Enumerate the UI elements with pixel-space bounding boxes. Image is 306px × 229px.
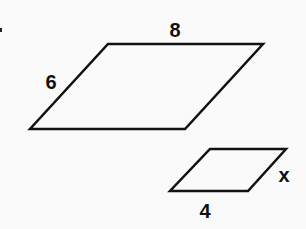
large-left-side-label: 6 xyxy=(45,71,56,93)
small-bottom-side-label: 4 xyxy=(199,200,211,222)
stray-mark xyxy=(0,28,2,32)
small-right-side-label: x xyxy=(278,164,289,186)
similar-parallelograms-diagram: 8 6 4 x xyxy=(0,0,306,229)
large-parallelogram xyxy=(30,44,263,129)
large-top-side-label: 8 xyxy=(169,19,180,41)
small-parallelogram xyxy=(170,149,286,191)
